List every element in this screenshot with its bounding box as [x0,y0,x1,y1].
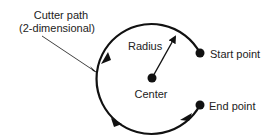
center-label: Center [134,88,167,100]
arc-direction-arrow-icon [180,113,192,121]
cutter-path-subtitle-label: (2-dimensional) [19,22,95,34]
start-point-label: Start point [210,48,260,60]
cutter-path-leader-line [42,36,96,72]
cutter-path-label: Cutter path [34,9,88,21]
center-point [148,74,157,83]
arc-direction-arrow-icon [111,118,122,127]
end-point-label: End point [209,100,255,112]
end-point [196,101,205,110]
circular-interpolation-diagram: Cutter path (2-dimensional) Radius Start… [0,0,279,136]
start-point [196,49,205,58]
radius-label: Radius [128,40,163,52]
